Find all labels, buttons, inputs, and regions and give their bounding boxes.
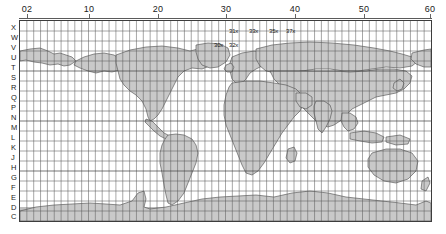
top-axis-tick-label: 02	[22, 4, 32, 14]
zone-callout-37x: 37x	[286, 28, 295, 34]
top-axis-tick-mark	[89, 14, 90, 18]
top-axis-tick-label: 30	[221, 4, 231, 14]
land-central-america	[145, 119, 170, 139]
zone-callout-35x: 35x	[269, 28, 278, 34]
top-axis-tick-label: 20	[153, 4, 163, 14]
zone-callout-32x: 32x	[229, 42, 238, 48]
top-axis-tick-mark	[226, 14, 227, 18]
top-axis-tick-label: 10	[84, 4, 94, 14]
zone-callout-30x: 30x	[214, 42, 223, 48]
zone-callout-31x: 31x	[229, 28, 238, 34]
top-axis-tick-label: 40	[290, 4, 300, 14]
top-axis-tick-mark	[295, 14, 296, 18]
zone-callout-33x: 33x	[249, 28, 258, 34]
top-axis-tick-mark	[27, 14, 28, 18]
land-alaska-far-west	[20, 48, 76, 66]
top-axis-tick-mark	[158, 14, 159, 18]
land-new-zealand	[421, 177, 430, 191]
land-new-guinea	[386, 135, 410, 145]
top-axis-tick-label: 60	[425, 4, 435, 14]
land-madagascar	[286, 147, 297, 163]
map-frame: 31x33x35x37x30x32x	[19, 20, 432, 222]
top-axis-tick-label: 50	[359, 4, 369, 14]
land-south-america	[160, 134, 198, 205]
world-map-svg	[20, 21, 431, 221]
utm-grid-zone-figure: 02102030405060 XWVUTSRQPNMLKJHGFEDC	[0, 0, 446, 234]
top-axis-tick-mark	[430, 14, 431, 18]
top-axis-line	[19, 18, 432, 19]
top-axis-tick-mark	[364, 14, 365, 18]
land-india	[314, 101, 332, 133]
